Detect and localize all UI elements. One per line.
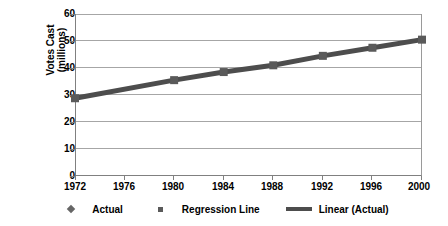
data-point-marker	[170, 76, 178, 84]
legend-label-regression-line: Regression Line	[182, 204, 260, 215]
data-point-marker	[319, 52, 327, 60]
square-marker-icon	[149, 204, 175, 214]
data-point-marker	[269, 61, 277, 69]
data-point-marker	[71, 94, 79, 102]
data-point-marker	[368, 44, 376, 52]
series-layer	[0, 0, 448, 226]
legend-item-actual[interactable]: Actual	[59, 204, 123, 215]
legend-item-linear-actual[interactable]: Linear (Actual)	[286, 204, 389, 215]
trend-line-icon	[286, 204, 312, 214]
chart-container: Votes Cast (millions) 60 50 40 30 20 10 …	[0, 0, 448, 226]
legend-label-linear-actual: Linear (Actual)	[319, 204, 389, 215]
diamond-marker-icon	[59, 204, 85, 214]
data-point-marker	[418, 36, 426, 44]
data-point-marker	[220, 68, 228, 76]
legend-label-actual: Actual	[92, 204, 123, 215]
legend-item-regression-line[interactable]: Regression Line	[149, 204, 260, 215]
chart-legend: Actual Regression Line Linear (Actual)	[0, 199, 448, 219]
